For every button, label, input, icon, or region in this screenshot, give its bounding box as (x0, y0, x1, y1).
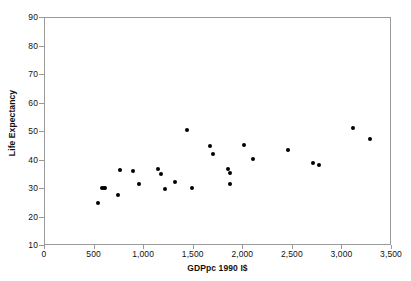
y-tick-label: 60 (0, 98, 38, 107)
x-tick-label: 0 (42, 250, 47, 259)
scatter-chart-figure: 102030405060708090 05001,0001,5002,0002,… (0, 0, 411, 281)
data-point (228, 171, 232, 175)
x-tick-label: 2,000 (231, 250, 253, 259)
y-tick-mark (39, 103, 44, 104)
y-tick-label: 40 (0, 155, 38, 164)
data-point (368, 137, 372, 141)
y-tick-mark (39, 46, 44, 47)
x-tick-label: 500 (86, 250, 100, 259)
data-point (351, 126, 355, 130)
plot-area (44, 17, 391, 245)
y-tick-mark (39, 17, 44, 18)
data-point (137, 182, 141, 186)
x-tick-label: 3,000 (331, 250, 353, 259)
y-axis-title: Life Expectancy (7, 63, 17, 183)
data-point (103, 186, 107, 190)
data-point (118, 168, 122, 172)
data-point (317, 163, 321, 167)
y-tick-mark (39, 131, 44, 132)
x-tick-label: 1,000 (132, 250, 154, 259)
data-point (208, 144, 212, 148)
data-point (211, 152, 215, 156)
data-point (185, 128, 189, 132)
y-tick-mark (39, 160, 44, 161)
x-tick-label: 1,500 (182, 250, 204, 259)
data-point (159, 172, 163, 176)
x-tick-label: 3,500 (380, 250, 402, 259)
y-tick-label: 80 (0, 41, 38, 50)
data-point (173, 180, 177, 184)
data-point (251, 157, 255, 161)
data-point (163, 187, 167, 191)
y-tick-label: 10 (0, 241, 38, 250)
y-tick-label: 20 (0, 212, 38, 221)
y-tick-mark (39, 188, 44, 189)
y-tick-label: 90 (0, 13, 38, 22)
data-point (190, 186, 194, 190)
x-axis-title: GDPpc 1990 I$ (44, 263, 391, 273)
y-tick-label: 50 (0, 127, 38, 136)
data-point (116, 193, 120, 197)
data-point (156, 167, 160, 171)
y-tick-mark (39, 217, 44, 218)
data-point (311, 161, 315, 165)
data-point (242, 143, 246, 147)
y-tick-label: 70 (0, 70, 38, 79)
data-point (96, 201, 100, 205)
x-tick-label: 2,500 (281, 250, 303, 259)
data-point (228, 182, 232, 186)
data-point (286, 148, 290, 152)
y-tick-label: 30 (0, 184, 38, 193)
y-tick-mark (39, 74, 44, 75)
data-point (131, 169, 135, 173)
